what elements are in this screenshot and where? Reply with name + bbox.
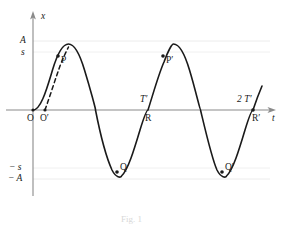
marker-point-R-prime bbox=[251, 108, 255, 112]
level-label-displacement-upper: s bbox=[21, 48, 25, 58]
level-label-amplitude-lower: − A bbox=[8, 174, 22, 184]
marker-point-Q bbox=[115, 170, 119, 174]
figure-container: x t A s − s − A O O′ P Q T′ R P′ Q′ 2 T′… bbox=[0, 0, 287, 227]
point-label-p: P bbox=[61, 56, 66, 66]
marker-point-P-prime bbox=[161, 54, 165, 58]
point-label-r: R bbox=[145, 114, 151, 124]
marker-origin-O-prime bbox=[43, 108, 46, 111]
shifted-origin-label: O′ bbox=[40, 114, 49, 124]
level-label-displacement-lower: − s bbox=[9, 163, 21, 173]
time-label-period: T′ bbox=[140, 95, 147, 105]
point-label-q-prime: Q′ bbox=[225, 163, 234, 173]
figure-caption: Fig. 1 bbox=[121, 214, 142, 224]
marker-point-Q-prime bbox=[220, 170, 224, 174]
marker-point-P bbox=[56, 54, 60, 58]
time-label-two-periods: 2 T′ bbox=[237, 95, 252, 105]
marker-origin-O bbox=[31, 108, 34, 111]
curve-markers bbox=[31, 54, 254, 174]
sine-curve bbox=[33, 44, 262, 177]
y-axis-label: x bbox=[41, 12, 45, 22]
point-label-p-prime: P′ bbox=[166, 56, 173, 66]
level-label-amplitude-upper: A bbox=[20, 36, 26, 46]
point-label-r-prime: R′ bbox=[252, 114, 260, 124]
origin-label: O bbox=[27, 114, 34, 124]
x-axis-label: t bbox=[272, 114, 275, 124]
point-label-q: Q bbox=[120, 163, 127, 173]
